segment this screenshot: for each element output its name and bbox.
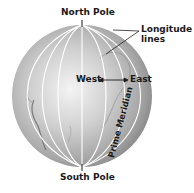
north-pole-label: North Pole (61, 8, 115, 17)
west-label: West (76, 75, 101, 84)
longitude-callout-line-1 (113, 30, 139, 31)
south-pole-label: South Pole (60, 173, 115, 182)
east-label: East (130, 75, 152, 84)
longitude-label-line1: Longitude (141, 24, 192, 34)
globe-diagram: North Pole South Pole Longitude lines We… (0, 0, 194, 193)
longitude-lines-label: Longitude lines (141, 24, 192, 44)
longitude-label-line2: lines (141, 34, 192, 44)
